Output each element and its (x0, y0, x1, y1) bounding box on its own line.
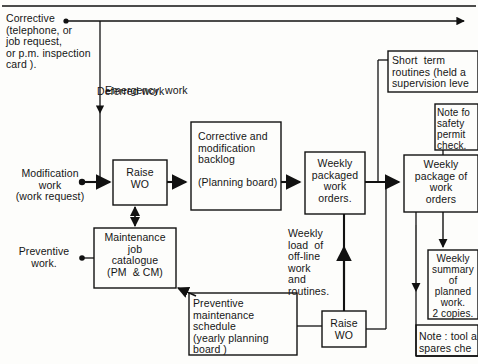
flowchart-diagram: Corrective (telephone, or job request, o… (0, 0, 478, 364)
flow-label-weekly-load: Weekly load of off-line work and routine… (288, 228, 329, 298)
weekly-package-text: Weekly package of work orders (405, 159, 477, 205)
weekly-summary-text: Weekly summary of planned work. 2 copies… (429, 253, 477, 319)
emergency-work-arrow (63, 18, 464, 23)
corrective-backlog-text: Corrective and modification backlog (Pla… (198, 131, 277, 189)
preventive-schedule-text: Preventive maintenance schedule (yearly … (193, 298, 269, 356)
short-term-routines-text: Short term routines (held a supervision … (392, 55, 469, 90)
input-modification-label: Modification work (work request) (4, 168, 96, 203)
weekly-packaged-text: Weekly packaged work orders. (306, 158, 364, 204)
raise-wo-bottom-text: Raise WO (323, 318, 365, 341)
flow-label-deferred-work: Deferred work (97, 86, 164, 98)
raise-wo-bottom-right-line (366, 185, 386, 329)
note-tool-spares-text: Note : tool a spares che (419, 331, 477, 354)
input-preventive-label: Preventive work. (4, 246, 84, 269)
schedule-to-catalogue-arrow (178, 288, 196, 296)
raise-wo-top-text: Raise WO (115, 167, 165, 190)
maintenance-job-catalogue-text: Maintenance job catalogue (PM & CM) (95, 232, 175, 278)
short-term-routines-feed-line (378, 60, 388, 182)
note-safety-permit-text: Note fo safety permit check. (437, 107, 470, 151)
input-corrective-label: Corrective (telephone, or job request, o… (6, 13, 91, 71)
